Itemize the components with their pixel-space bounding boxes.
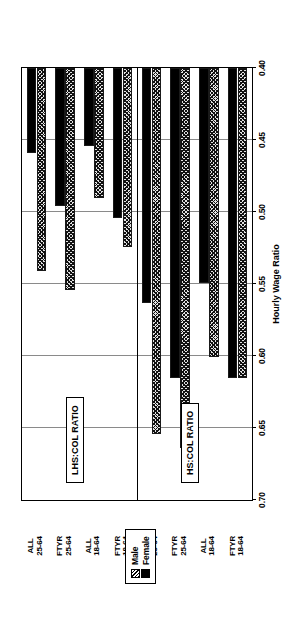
legend-swatch-female-icon [141,569,150,578]
bar-lhs-ftyr-18-64-female [113,68,123,218]
bar-hs-ftyr-18-64-male [238,68,248,378]
bar-hs-ftyr-18-64-female [228,68,238,378]
legend-entry-female: Female [141,536,152,578]
bar-hs-ftyr-25-64-male [180,68,190,448]
plot-area [21,67,253,501]
axis-tick-label-2: 0.60 [257,336,267,376]
category-label-hs-all-18-64: ALL 18-64 [200,503,217,589]
category-label-line2: 18-64 [237,503,245,589]
axis-title-hourly-wage-ratio: Hourly Wage Ratio [271,67,281,501]
legend-label-female: Female [141,536,152,565]
bar-hs-all-18-64-female [199,68,209,283]
panel-title-lhs-col-ratio: LHS:COL RATIO [66,397,84,483]
bar-hs-all-25-64-male [152,68,162,434]
axis-tick-label-3: 0.55 [257,264,267,304]
bar-lhs-all-18-64-male [94,68,104,198]
legend-entry-male: Male [130,536,141,578]
category-label-line2: 25-64 [180,503,188,589]
bar-lhs-all-18-64-female [84,68,94,146]
scan-artifact-mark [2,609,4,616]
category-label-line2: 18-64 [93,503,101,589]
axis-tick-mark [252,139,256,140]
legend-label-male: Male [130,547,141,566]
axis-tick-label-1: 0.65 [257,408,267,448]
category-label-lhs-ftyr-25-64: FTYR 25-64 [56,503,73,589]
category-label-lhs-all-18-64: ALL 18-64 [85,503,102,589]
legend-swatch-male-icon [131,569,140,578]
figure: Male Female HS:COL RATIO LHS:COL RATIO F… [17,31,285,591]
category-label-line2: 25-64 [65,503,73,589]
category-label-line2: 25-64 [36,503,44,589]
axis-tick-mark [252,499,256,500]
bar-hs-ftyr-25-64-female [170,68,180,378]
panel-separator [137,68,138,500]
category-label-hs-ftyr-18-64: FTYR 18-64 [229,503,246,589]
axis-tick-label-4: 0.50 [257,192,267,232]
panel-title-hs-col-ratio: HS:COL RATIO [181,403,199,483]
chart-page: Male Female HS:COL RATIO LHS:COL RATIO F… [0,0,302,622]
chart-legend: Male Female [125,529,156,584]
bar-hs-all-25-64-female [142,68,152,303]
bar-lhs-all-25-64-female [27,68,37,153]
bar-lhs-ftyr-18-64-male [123,68,133,247]
axis-tick-label-0: 0.70 [257,480,267,520]
axis-tick-mark [252,67,256,68]
bar-lhs-ftyr-25-64-female [55,68,65,206]
category-label-line2: 18-64 [208,503,216,589]
axis-tick-mark [252,283,256,284]
category-label-hs-ftyr-25-64: FTYR 25-64 [171,503,188,589]
bar-hs-all-18-64-male [209,68,219,357]
category-label-lhs-all-25-64: ALL 25-64 [27,503,44,589]
bar-lhs-ftyr-25-64-male [65,68,75,290]
axis-tick-mark [252,427,256,428]
axis-tick-label-6: 0.40 [257,48,267,88]
axis-tick-mark [252,355,256,356]
bar-lhs-all-25-64-male [37,68,47,271]
axis-tick-mark [252,211,256,212]
axis-tick-label-5: 0.45 [257,120,267,160]
rotated-figure-container: Male Female HS:COL RATIO LHS:COL RATIO F… [17,31,285,591]
